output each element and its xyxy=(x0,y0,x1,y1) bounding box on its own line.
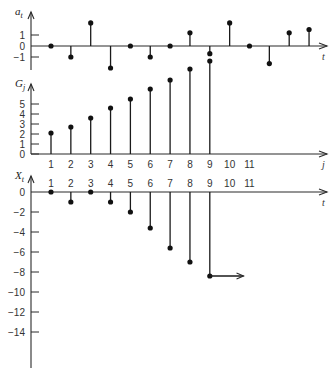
data-point xyxy=(48,189,53,194)
data-point xyxy=(108,199,113,204)
x-tick-label: 9 xyxy=(207,159,213,170)
y-tick-label: −14 xyxy=(8,327,25,338)
chart-canvas: att10−1 Gjj5432101234567891011 Xtt0−2−4−… xyxy=(0,0,336,374)
data-point xyxy=(48,130,53,135)
data-point xyxy=(227,20,232,25)
data-point xyxy=(128,96,133,101)
stem-charts-figure: att10−1 Gjj5432101234567891011 Xtt0−2−4−… xyxy=(0,0,336,374)
data-point xyxy=(68,54,73,59)
x-tick-label: 2 xyxy=(68,178,74,189)
x-tick-label: 5 xyxy=(128,159,134,170)
x-tick-label: 4 xyxy=(108,178,114,189)
x-tick-label: 3 xyxy=(88,159,94,170)
x-axis-label: j xyxy=(320,159,325,170)
y-tick-label: −8 xyxy=(14,267,26,278)
x-tick-label: 6 xyxy=(147,178,153,189)
panel-g-j: Gjj5432101234567891011 xyxy=(15,58,327,170)
x-tick-label: 6 xyxy=(147,159,153,170)
data-point xyxy=(267,61,272,66)
y-tick-label: 1 xyxy=(19,30,25,41)
x-tick-label: 5 xyxy=(128,178,134,189)
y-tick-label: −10 xyxy=(8,287,25,298)
x-tick-label: 8 xyxy=(187,178,193,189)
data-point xyxy=(88,20,93,25)
x-tick-label: 2 xyxy=(68,159,74,170)
data-point xyxy=(128,43,133,48)
y-axis-label: at xyxy=(15,5,24,20)
data-point xyxy=(48,43,53,48)
x-tick-label: 3 xyxy=(88,178,94,189)
y-tick-label: −2 xyxy=(14,207,26,218)
data-point xyxy=(128,209,133,214)
data-point xyxy=(88,189,93,194)
y-tick-label: 0 xyxy=(19,41,25,52)
data-point xyxy=(148,86,153,91)
x-tick-label: 1 xyxy=(48,159,54,170)
data-point xyxy=(207,58,212,63)
data-point xyxy=(187,66,192,71)
data-point xyxy=(207,51,212,56)
data-point xyxy=(88,115,93,120)
x-tick-label: 11 xyxy=(244,159,255,170)
y-tick-label: 0 xyxy=(19,187,25,198)
data-point xyxy=(168,245,173,250)
data-point xyxy=(287,30,292,35)
x-tick-label: 11 xyxy=(244,178,255,189)
data-point xyxy=(148,54,153,59)
data-point xyxy=(108,65,113,70)
y-axis-label: Xt xyxy=(14,169,25,184)
y-tick-label: 0 xyxy=(19,149,25,160)
data-point xyxy=(168,77,173,82)
x-tick-label: 10 xyxy=(224,178,236,189)
data-point xyxy=(108,105,113,110)
data-point xyxy=(187,30,192,35)
data-point xyxy=(306,27,311,32)
y-tick-label: −1 xyxy=(14,52,26,63)
data-point xyxy=(168,43,173,48)
panel-a-t: att10−1 xyxy=(14,5,327,71)
data-point xyxy=(68,124,73,129)
x-tick-label: 1 xyxy=(48,178,54,189)
x-tick-label: 9 xyxy=(207,178,213,189)
x-tick-label: 10 xyxy=(224,159,236,170)
y-tick-label: −4 xyxy=(14,227,26,238)
x-tick-label: 7 xyxy=(167,178,173,189)
x-tick-label: 7 xyxy=(167,159,173,170)
y-axis-label: Gj xyxy=(15,77,26,92)
x-axis-label: t xyxy=(322,197,325,208)
x-axis-label: t xyxy=(322,51,325,62)
data-point xyxy=(247,43,252,48)
data-point xyxy=(148,225,153,230)
x-tick-label: 4 xyxy=(108,159,114,170)
x-tick-label: 8 xyxy=(187,159,193,170)
y-tick-label: −6 xyxy=(14,247,26,258)
y-tick-label: −12 xyxy=(8,307,25,318)
panel-x-t: Xtt0−2−4−6−8−10−12−141234567891011 xyxy=(8,169,327,368)
data-point xyxy=(187,259,192,264)
data-point xyxy=(68,199,73,204)
